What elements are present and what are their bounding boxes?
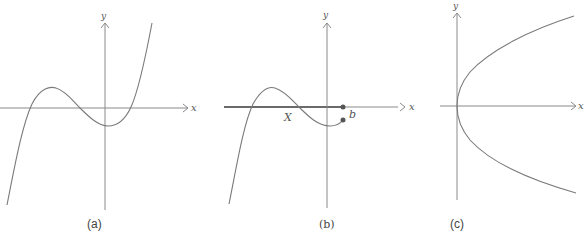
endpoint-dot-curve: [341, 118, 346, 123]
panel-caption: (b): [319, 218, 335, 231]
restricted-cubic-curve: [229, 88, 343, 204]
set-x-label: X: [283, 111, 293, 124]
panel-c: x y (c): [440, 1, 584, 231]
x-axis-label: x: [191, 102, 197, 113]
x-axis-arrow-icon: [400, 103, 405, 111]
figure-canvas: x y (a) x X y b (b) x y: [0, 0, 588, 232]
y-axis-label: y: [100, 11, 107, 21]
y-axis-label: y: [452, 1, 459, 11]
endpoint-dot-axis: [341, 105, 346, 110]
panel-caption: (a): [87, 217, 102, 231]
parabola-curve: [457, 16, 576, 193]
panel-b: x X y b (b): [224, 10, 415, 231]
panel-a: x y (a): [0, 11, 197, 231]
x-axis-label: x: [578, 100, 584, 111]
panel-caption: (c): [450, 217, 464, 231]
point-b-label: b: [349, 108, 356, 121]
cubic-curve: [7, 23, 152, 205]
y-axis-label: y: [322, 10, 329, 20]
x-axis-label: x: [409, 101, 415, 112]
